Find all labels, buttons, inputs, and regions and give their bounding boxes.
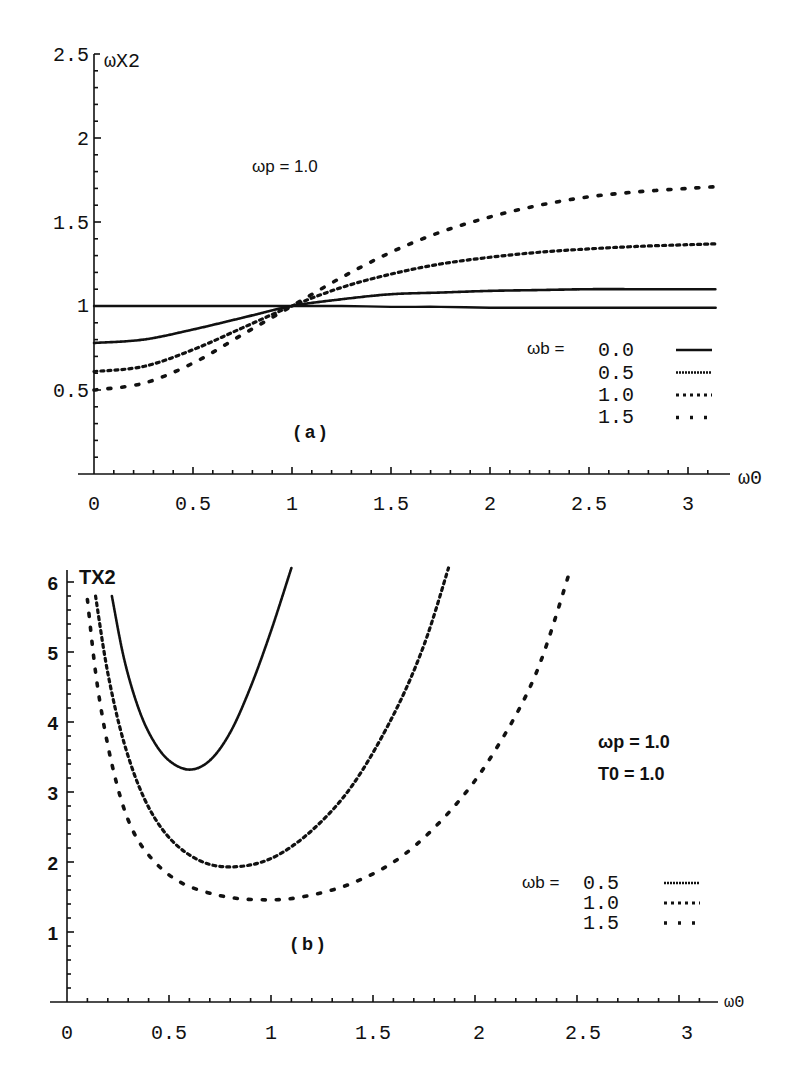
chart-b-xtick: 1 [265, 1022, 277, 1045]
chart-b-ytick: 3 [47, 783, 58, 804]
chart-b-series-0.5 [112, 568, 292, 770]
chart-a-ytick: 0.5 [53, 380, 89, 403]
chart-b-series-1.5 [87, 568, 570, 900]
chart-a-ytick: 2 [77, 128, 89, 151]
chart-b-xtick: 0.5 [151, 1022, 187, 1045]
chart-a-xtick: 1 [286, 493, 298, 516]
chart-a-ytick: 2.5 [53, 44, 89, 67]
chart-a-legend-label: 1.0 [598, 384, 634, 407]
chart-b-annotation: ωp = 1.0 [598, 732, 670, 752]
chart-a-xtick: 0 [88, 493, 100, 516]
chart-a-xtick: 1.5 [373, 493, 409, 516]
chart-a-legend-label: 0.5 [598, 362, 634, 385]
chart-b-legend-title: ωb = [522, 873, 559, 892]
chart-a-xtick: 2 [484, 493, 496, 516]
chart-a-xtick: 0.5 [175, 493, 211, 516]
chart-b-xtick: 2.5 [565, 1022, 601, 1045]
chart-a-xlabel: ω0 [738, 467, 762, 490]
chart-a: 2.5 2 1.5 1 0.5 ωX2 0 0.5 1 1.5 2 2.5 3 … [53, 44, 762, 516]
chart-a-xtick: 2.5 [571, 493, 607, 516]
chart-b-series [87, 568, 570, 900]
chart-b-xtick: 2 [473, 1022, 485, 1045]
chart-b: 6 5 4 3 2 1 TX2 0 0.5 1 1.5 2 2.5 3 ω0 ω… [47, 566, 744, 1045]
chart-b-xtick: 0 [61, 1022, 73, 1045]
chart-a-annotation: ωp = 1.0 [252, 157, 318, 176]
chart-b-xlabel: ω0 [724, 993, 744, 1012]
chart-a-legend-label: 1.5 [598, 406, 634, 429]
chart-b-ytick: 2 [47, 853, 58, 874]
chart-b-legend-swatches [664, 883, 700, 923]
chart-a-ytick: 1 [77, 295, 89, 318]
chart-a-panel-label: ( a ) [294, 422, 326, 442]
chart-a-legend-title: ωb = [527, 339, 564, 358]
chart-b-ytick: 1 [47, 923, 58, 944]
chart-b-ytick: 4 [47, 713, 58, 734]
chart-a-ylabel: ωX2 [104, 50, 140, 73]
chart-a-legend-swatches [676, 350, 712, 418]
chart-b-ytick: 5 [47, 643, 58, 664]
chart-b-xtick: 1.5 [355, 1022, 391, 1045]
chart-a-legend-label: 0.0 [598, 339, 634, 362]
figure: 2.5 2 1.5 1 0.5 ωX2 0 0.5 1 1.5 2 2.5 3 … [0, 0, 804, 1074]
chart-a-xtick: 3 [682, 493, 694, 516]
chart-b-annotation: T0 = 1.0 [598, 764, 665, 784]
chart-a-ytick: 1.5 [53, 212, 89, 235]
chart-b-legend-label: 1.5 [583, 912, 619, 935]
chart-b-xtick: 3 [681, 1022, 693, 1045]
chart-b-series-1.0 [96, 568, 449, 867]
chart-b-ytick: 6 [47, 573, 58, 594]
chart-a-series-0.5 [94, 289, 716, 343]
chart-a-series-0.0 [94, 306, 716, 308]
chart-b-ticks [67, 582, 699, 1002]
chart-b-ylabel: TX2 [79, 566, 116, 588]
chart-b-panel-label: ( b ) [291, 934, 324, 954]
